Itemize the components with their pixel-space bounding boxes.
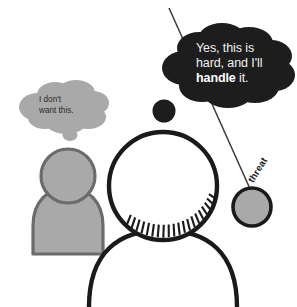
foreground-person-head bbox=[109, 132, 217, 240]
threat-ball bbox=[233, 188, 271, 226]
dark-thought-tail-dot bbox=[153, 100, 176, 123]
gray-thought-cloud-shape bbox=[19, 80, 109, 134]
illustration-canvas: Yes, this ishard, and I'llhandle it. I d… bbox=[0, 0, 297, 307]
gray-thought-tail-bubble bbox=[63, 129, 78, 141]
gray-person-silhouette bbox=[33, 149, 103, 254]
